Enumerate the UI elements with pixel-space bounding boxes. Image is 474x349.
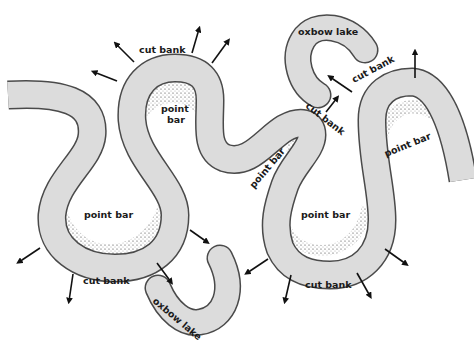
label-point-bar-right: point bar bbox=[383, 130, 433, 159]
arrow-icon bbox=[330, 77, 352, 92]
arrow-icon bbox=[69, 274, 73, 301]
label-point-bar-top: point bbox=[161, 103, 189, 114]
arrow-icon bbox=[212, 41, 228, 63]
label-oxbow-lake-top: oxbow lake bbox=[298, 26, 358, 37]
label-point-bar-center: point bar bbox=[301, 209, 350, 220]
label-cut-bank-bottom-right: cut bank bbox=[305, 279, 352, 290]
river-channel bbox=[8, 68, 463, 275]
arrow-icon bbox=[19, 248, 40, 262]
oxbow-lake-top bbox=[298, 28, 365, 95]
arrow-icon bbox=[116, 44, 134, 62]
meander-diagram: cut bank point bar point bar cut bank ox… bbox=[0, 0, 474, 349]
arrow-icon bbox=[192, 29, 199, 53]
label-cut-bank-top: cut bank bbox=[139, 44, 186, 55]
arrow-icon bbox=[94, 72, 117, 81]
label-cut-bank-bottom-left: cut bank bbox=[83, 275, 130, 286]
label-point-bar-top-line2: bar bbox=[167, 114, 185, 125]
arrow-icon bbox=[247, 259, 268, 273]
arrow-icon bbox=[190, 230, 207, 242]
label-point-bar-left: point bar bbox=[84, 209, 133, 220]
